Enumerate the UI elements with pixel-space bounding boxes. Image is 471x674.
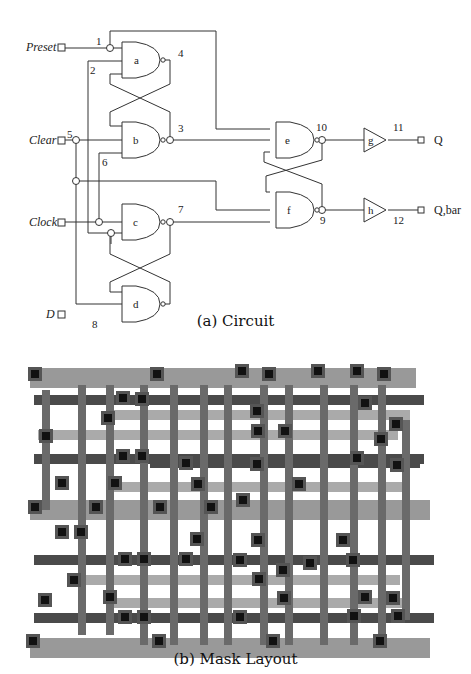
circuit-diagram: Preset Clear Clock D a b c d e f xyxy=(0,0,471,340)
gate-c: c xyxy=(122,204,165,240)
output-pin-q xyxy=(418,137,424,143)
svg-text:3: 3 xyxy=(178,122,184,134)
output-label-qbar: Q,bar xyxy=(434,203,461,217)
junction-3 xyxy=(167,137,174,144)
junction-2 xyxy=(108,230,115,237)
gate-b: b xyxy=(122,122,165,158)
input-label-clock: Clock xyxy=(29,215,58,229)
svg-text:e: e xyxy=(285,134,290,146)
junction-clear-branch xyxy=(73,178,80,185)
input-pin-preset xyxy=(58,44,65,51)
svg-text:b: b xyxy=(133,134,139,146)
svg-text:d: d xyxy=(133,298,139,310)
gate-f: f xyxy=(276,192,319,228)
junction-clock xyxy=(96,219,103,226)
svg-text:12: 12 xyxy=(393,214,404,226)
gate-e: e xyxy=(276,122,319,158)
svg-text:11: 11 xyxy=(393,121,404,133)
svg-text:c: c xyxy=(133,216,138,228)
svg-text:9: 9 xyxy=(320,214,326,226)
buffer-h: h xyxy=(364,198,386,222)
junction-7 xyxy=(167,219,174,226)
input-label-preset: Preset xyxy=(25,40,57,54)
svg-text:1: 1 xyxy=(96,35,102,47)
caption-layout: (b) Mask Layout xyxy=(0,650,471,668)
svg-text:a: a xyxy=(134,54,139,66)
buffer-g: g xyxy=(364,128,386,152)
svg-text:7: 7 xyxy=(178,203,184,215)
mask-layout xyxy=(0,328,471,674)
output-pin-qbar xyxy=(418,207,424,213)
svg-text:h: h xyxy=(368,204,374,216)
gate-a: a xyxy=(122,42,165,78)
output-label-q: Q xyxy=(434,133,443,147)
input-pin-clear xyxy=(58,137,65,144)
input-pin-clock xyxy=(58,219,65,226)
input-label-clear: Clear xyxy=(29,133,57,147)
svg-text:4: 4 xyxy=(178,47,184,59)
junction-5 xyxy=(73,137,80,144)
svg-text:2: 2 xyxy=(90,64,96,76)
svg-text:g: g xyxy=(368,134,374,146)
svg-text:6: 6 xyxy=(102,156,108,168)
svg-text:10: 10 xyxy=(316,121,328,133)
svg-text:f: f xyxy=(287,204,291,216)
svg-text:5: 5 xyxy=(67,128,73,140)
junction-1 xyxy=(107,45,114,52)
